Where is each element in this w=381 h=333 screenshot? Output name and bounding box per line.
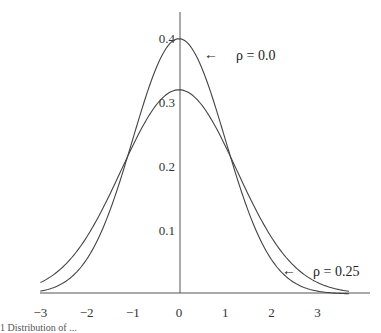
figure-caption: 1 Distribution of ... [0, 322, 77, 333]
curve-rho-025 [40, 90, 349, 292]
x-tick-label: −2 [80, 305, 94, 320]
y-tick-label: 0.3 [159, 95, 175, 110]
annotation-label-rho-0: ρ = 0.0 [236, 48, 275, 63]
annotation-label-rho-025: ρ = 0.25 [313, 264, 359, 279]
y-tick-labels: 0.10.20.30.4 [159, 31, 176, 238]
annotation-rho-025: ← ρ = 0.25 [282, 263, 359, 279]
curves [40, 39, 349, 294]
annotation-rho-0: ← ρ = 0.0 [204, 47, 275, 63]
y-tick-label: 0.4 [159, 31, 176, 46]
x-tick-label: 2 [268, 305, 275, 320]
x-tick-label: −1 [126, 305, 140, 320]
x-tick-label: 3 [314, 305, 321, 320]
y-tick-label: 0.1 [159, 223, 175, 238]
x-tick-label: −3 [33, 305, 47, 320]
arrow-left-icon: ← [282, 263, 296, 278]
x-tick-label: 1 [222, 305, 229, 320]
x-tick-labels: −3−2−10123 [33, 305, 320, 320]
arrow-left-icon: ← [204, 47, 218, 62]
y-tick-label: 0.2 [159, 159, 175, 174]
curve-rho-0 [40, 39, 349, 294]
x-tick-label: 0 [176, 305, 183, 320]
